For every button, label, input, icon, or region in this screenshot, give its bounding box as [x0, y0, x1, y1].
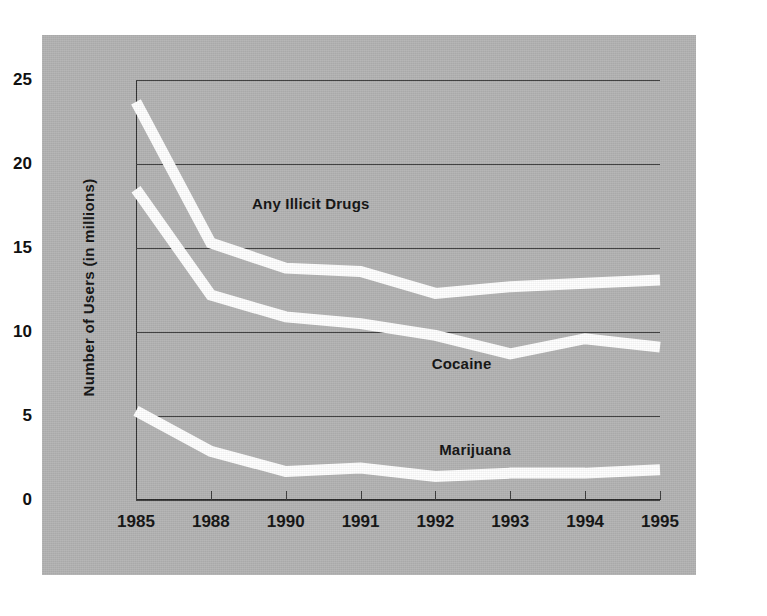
series-annotation: Cocaine	[432, 355, 492, 372]
x-tick-label: 1990	[251, 512, 321, 532]
x-tick-label: 1995	[625, 512, 695, 532]
gridline	[136, 500, 660, 501]
y-tick-label: 15	[0, 238, 32, 258]
y-tick-label: 10	[0, 322, 32, 342]
series-line	[136, 189, 660, 354]
series-line	[136, 102, 660, 294]
chart-page: Number of Users (in millions) 0510152025…	[0, 0, 767, 616]
x-tick-label: 1988	[176, 512, 246, 532]
x-tick-label: 1985	[101, 512, 171, 532]
y-tick-label: 0	[0, 490, 32, 510]
x-tick-label: 1992	[400, 512, 470, 532]
y-tick-label: 25	[0, 70, 32, 90]
x-tick-label: 1993	[475, 512, 545, 532]
y-tick-label: 5	[0, 406, 32, 426]
x-tick-label: 1994	[550, 512, 620, 532]
y-tick-label: 20	[0, 154, 32, 174]
series-annotation: Any Illicit Drugs	[252, 195, 370, 212]
x-tick	[660, 491, 661, 500]
series-annotation: Marijuana	[439, 441, 511, 458]
figure-plate: Number of Users (in millions) 0510152025…	[42, 35, 696, 575]
series-lines	[136, 80, 660, 500]
x-tick-label: 1991	[326, 512, 396, 532]
plot-area: 0510152025 19851988199019911992199319941…	[136, 80, 660, 500]
y-axis-title: Number of Users (in millions)	[80, 138, 97, 438]
series-line	[136, 411, 660, 477]
